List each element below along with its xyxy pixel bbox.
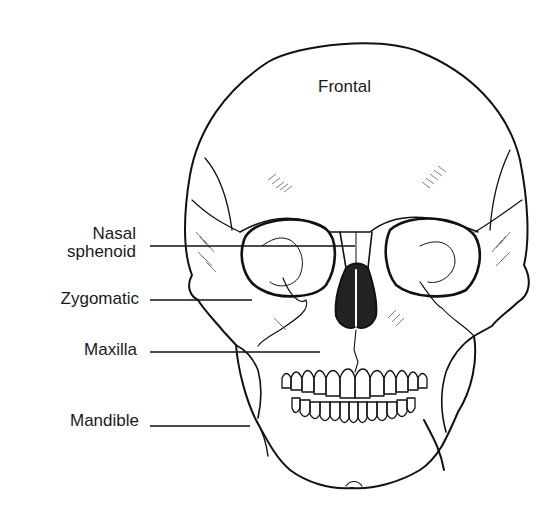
- nasal-label-line2: sphenoid: [67, 243, 136, 261]
- zygomatic-label: Zygomatic: [61, 290, 139, 308]
- frontal-label: Frontal: [318, 78, 371, 96]
- nasal-sphenoid-label: Nasal sphenoid: [67, 225, 136, 261]
- nasal-label-line1: Nasal: [67, 225, 136, 243]
- upper-teeth: [282, 369, 427, 398]
- skull-diagram: Frontal Nasal sphenoid Zygomatic Maxilla…: [0, 0, 553, 518]
- lower-teeth: [292, 398, 415, 423]
- mandible-label: Mandible: [70, 412, 139, 430]
- maxilla-label: Maxilla: [84, 341, 137, 359]
- right-orbit: [386, 219, 480, 297]
- leader-lines: [150, 246, 355, 426]
